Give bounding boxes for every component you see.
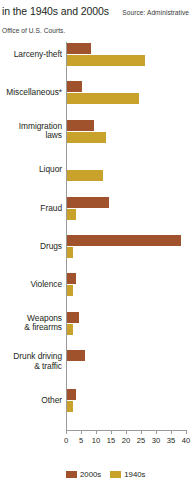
x-axis-tick-label: 35	[163, 436, 179, 445]
legend-label-2000s: 2000s	[80, 470, 101, 479]
bar-1940s-fraud	[67, 209, 76, 220]
bar-2000s-fraud	[67, 197, 109, 208]
legend-swatch-2000s	[66, 471, 77, 478]
x-axis-tick	[171, 430, 172, 434]
category-label: Fraud	[0, 204, 62, 213]
x-axis-tick-label: 20	[118, 436, 134, 445]
x-axis-tick-label: 30	[148, 436, 164, 445]
category-label-line: & traffic	[0, 362, 62, 371]
chart-header: in the 1940s and 2000s Source: Administr…	[2, 1, 194, 37]
category-label: Immigrationlaws	[0, 122, 62, 141]
bar-1940s-other	[67, 401, 73, 412]
x-axis-tick-label: 15	[103, 436, 119, 445]
category-label: Larceny-theft	[0, 50, 62, 59]
category-label-line: Liquor	[0, 165, 62, 174]
bar-2000s-drugs	[67, 235, 181, 246]
category-label: Miscellaneous*	[0, 88, 62, 97]
legend-label-1940s: 1940s	[124, 470, 145, 479]
bar-1940s-miscellaneous	[67, 93, 139, 104]
x-axis-tick-label: 40	[178, 436, 194, 445]
bar-1940s-liquor	[67, 170, 103, 181]
x-axis-tick	[96, 430, 97, 434]
category-label: Other	[0, 396, 62, 405]
x-axis-tick-label: 0	[58, 436, 74, 445]
bar-2000s-miscellaneous	[67, 81, 82, 92]
bar-1940s-immigration-laws	[67, 132, 106, 143]
x-axis-tick	[81, 430, 82, 434]
x-axis-tick	[156, 430, 157, 434]
bar-2000s-immigration-laws	[67, 120, 94, 131]
bar-2000s-violence	[67, 273, 76, 284]
x-axis-tick	[111, 430, 112, 434]
chart-legend: 2000s 1940s	[66, 470, 146, 479]
bar-1940s-larceny-theft	[67, 55, 145, 66]
x-axis-tick	[141, 430, 142, 434]
category-label-line: & firearms	[0, 323, 62, 332]
category-label: Drugs	[0, 242, 62, 251]
bar-2000s-other	[67, 389, 76, 400]
bar-1940s-drugs	[67, 247, 73, 258]
category-label-line: laws	[0, 131, 62, 140]
category-label: Liquor	[0, 165, 62, 174]
x-axis-tick	[126, 430, 127, 434]
bar-1940s-violence	[67, 285, 73, 296]
plot-area	[66, 42, 186, 430]
bar-1940s-weapons-firearms	[67, 324, 73, 335]
x-axis-tick-label: 5	[73, 436, 89, 445]
legend-item-2000s[interactable]: 2000s	[66, 470, 101, 479]
legend-item-1940s[interactable]: 1940s	[110, 470, 145, 479]
legend-swatch-1940s	[110, 471, 121, 478]
category-label-line: Fraud	[0, 204, 62, 213]
category-label-line: Violence	[0, 280, 62, 289]
category-label-line: Larceny-theft	[0, 50, 62, 59]
bar-2000s-larceny-theft	[67, 43, 91, 54]
x-axis-tick	[66, 430, 67, 434]
category-label: Violence	[0, 280, 62, 289]
category-label-line: Other	[0, 396, 62, 405]
category-label: Drunk driving& traffic	[0, 352, 62, 371]
page-title: in the 1940s and 2000s	[2, 5, 109, 17]
category-label-line: Miscellaneous*	[0, 88, 62, 97]
x-axis-tick-label: 10	[88, 436, 104, 445]
category-label: Weapons& firearms	[0, 314, 62, 333]
x-axis-tick-label: 25	[133, 436, 149, 445]
category-label-line: Drugs	[0, 242, 62, 251]
x-axis-tick	[186, 430, 187, 434]
bar-2000s-drunk-driving-traffic	[67, 350, 85, 361]
bar-2000s-weapons-firearms	[67, 312, 79, 323]
